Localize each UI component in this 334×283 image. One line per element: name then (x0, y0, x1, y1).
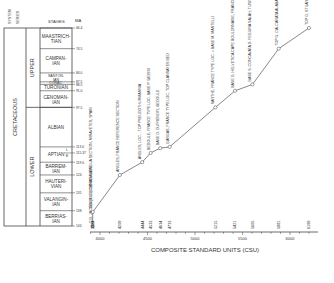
point-annotation: BASE G. HELVETICA CAPE BOULONNAISE, FRAN… (231, 0, 235, 88)
svg-text:IAN: IAN (52, 219, 60, 224)
stage-cenomanian: CENOMAN-IAN (43, 95, 68, 105)
point-value-label: 4209 (118, 221, 122, 229)
data-point (251, 83, 254, 86)
point-annotation: 3924 K. LUCIENSIS SAME (89, 165, 93, 209)
series-label-upper: UPPER (29, 58, 35, 77)
svg-text:TIAN: TIAN (51, 39, 61, 44)
ma-tick: 113.0 (76, 145, 84, 149)
series-label-lower: LOWER (29, 157, 35, 177)
stage-albian: ALBIAN (48, 125, 64, 130)
stage-barremian: BARREM-IAN (45, 164, 67, 174)
point-annotation: BEDOULE, FRANCE TYPE LOC. BASE P. WEISSI (147, 68, 151, 150)
data-point (149, 151, 152, 154)
point-value-label: 5881 (277, 221, 281, 229)
data-point (277, 47, 280, 50)
header-stages: STAGES (48, 19, 65, 24)
data-point (141, 161, 144, 164)
point-annotation: ANGLES, LOC. - TOP PSEUDOTHURMANNIA (138, 83, 142, 159)
stage-maastrichtian: MAASTRICH-TIAN (42, 34, 71, 44)
point-annotation: SARTHE, FRANCE TYPE LOC. = BASE M. MANTE… (211, 16, 215, 104)
aptian-early: E (66, 154, 69, 158)
point-value-label: 4533 (149, 221, 153, 229)
svg-text:APTIAN: APTIAN (48, 152, 65, 157)
data-point (168, 145, 171, 148)
ma-tick: 115.37 (76, 151, 86, 155)
x-tick-label: 4500 (143, 236, 153, 241)
svg-text:TURONIAN: TURONIAN (44, 85, 68, 90)
stratigraphic-column: SYSTEMSERIESSTAGESMACRETACEOUSUPPERLOWER… (4, 9, 86, 228)
data-point (118, 173, 121, 176)
point-annotation: BASE S. CONCAVATA D. FEGUIRA SALAH, TUNI… (248, 0, 252, 81)
data-point (91, 210, 94, 213)
ma-tick: 131 (76, 191, 82, 195)
svg-text:IAN: IAN (52, 169, 60, 174)
svg-text:IAN: IAN (52, 202, 60, 207)
point-annotation: TOP G. STUARTI EL KEF, TUNISIA (305, 0, 309, 25)
point-value-label: 5605 (251, 221, 255, 229)
point-value-label: 6199 (307, 221, 311, 229)
plot-area: 40004500500055006000COMPOSITE STANDARD U… (89, 0, 318, 253)
data-point (159, 147, 162, 150)
point-value-label: 5421 (233, 221, 237, 229)
svg-text:IAN: IAN (52, 100, 60, 105)
svg-text:VIAN: VIAN (51, 184, 62, 189)
ma-tick: 74.5 (76, 47, 83, 51)
stage-berriasian: BERRIAS-IAN (45, 214, 67, 224)
header-series: SERIES (16, 10, 20, 24)
ma-tick: 124 (76, 173, 82, 177)
x-tick-label: 5500 (238, 236, 248, 241)
data-line (93, 28, 309, 226)
point-annotation: ANGLES, FRANCE REFERENCE SECTION (116, 100, 120, 172)
ma-tick: 88.5 (76, 83, 83, 87)
ma-tick: 144 (76, 224, 82, 228)
x-axis-label: COMPOSITE STANDARD UNITS (CSU) (151, 247, 259, 253)
point-value-label: 4733 (168, 221, 172, 229)
stage-hauterivian: HAUTERI-VIAN (45, 179, 67, 189)
stage-turonian: TURONIAN (44, 85, 68, 90)
x-tick-label: 4000 (96, 236, 106, 241)
data-point (214, 106, 217, 109)
point-annotation: GARGAS, FRANCE TYPE LOC. TOP CLANSAYES B… (166, 53, 170, 144)
ma-tick: 66.4 (76, 26, 83, 30)
header-system: SYSTEM (8, 9, 12, 24)
system-label: CRETACEOUS (12, 98, 18, 136)
ma-tick: 91.0 (76, 89, 83, 93)
aptian-late: L (66, 148, 68, 152)
svg-text:ALBIAN: ALBIAN (48, 125, 64, 130)
point-value-label: 3924 (91, 221, 95, 229)
data-point (233, 89, 236, 92)
stage-aptian: APTIAN (48, 152, 65, 157)
stage-valanginian: VALANGIN-IAN (44, 197, 69, 207)
x-tick-label: 5000 (191, 236, 201, 241)
point-annotation: BASE D. DUFRENOYI, BEDOULE (156, 89, 160, 145)
svg-text:IAN: IAN (52, 61, 60, 66)
ma-tick: 119.0 (76, 161, 84, 165)
stage-campanian: CAMPAN-IAN (46, 56, 67, 66)
point-value-label: 4634 (159, 221, 163, 229)
ma-tick: 84.0 (76, 71, 83, 75)
ma-tick: 138 (76, 209, 82, 213)
data-point (307, 26, 310, 29)
point-value-label: 4444 (141, 221, 145, 229)
x-tick-label: 6000 (286, 236, 296, 241)
chart: SYSTEMSERIESSTAGESMACRETACEOUSUPPERLOWER… (0, 0, 334, 283)
header-ma: MA (75, 18, 81, 23)
point-annotation: TOP G. CALCARATA ALABAMA POWER CO. WELL … (275, 0, 279, 46)
point-value-label: 5215 (214, 221, 218, 229)
ma-tick: 97.5 (76, 106, 83, 110)
